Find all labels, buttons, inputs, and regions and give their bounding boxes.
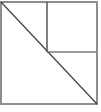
square-diagonal-figure (0, 0, 101, 112)
geometry-diagram (0, 0, 101, 112)
diagonal-line (1, 2, 97, 104)
